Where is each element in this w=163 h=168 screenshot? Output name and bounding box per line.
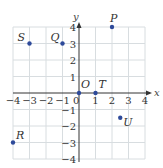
point-label: O xyxy=(81,78,90,91)
y-tick-label: 3 xyxy=(70,39,76,50)
y-tick-label: 2 xyxy=(70,55,76,66)
point-label: S xyxy=(18,31,26,44)
x-axis-label: x xyxy=(154,87,160,98)
x-tick-label: 1 xyxy=(92,95,98,106)
point-label: U xyxy=(123,116,133,129)
point-dot-icon xyxy=(27,41,31,45)
y-tick-label: −3 xyxy=(61,138,76,149)
point-U: U xyxy=(118,116,133,129)
x-tick-label: 4 xyxy=(142,95,148,106)
point-dot-icon xyxy=(93,91,97,95)
x-tick-label: 2 xyxy=(109,95,115,106)
y-tick-label: −2 xyxy=(61,121,76,132)
point-label: R xyxy=(15,129,24,142)
y-tick-label: 4 xyxy=(70,22,76,33)
y-tick-label: −4 xyxy=(61,154,76,165)
x-tick-label: 3 xyxy=(125,95,131,106)
x-tick-label: −4 xyxy=(6,95,21,106)
point-dot-icon xyxy=(118,116,122,120)
coordinate-plane: x y −4−3−2−1012344321−1−2−3−4 PQSOTUR xyxy=(0,0,163,168)
point-dot-icon xyxy=(77,91,81,95)
point-label: T xyxy=(99,78,108,91)
point-dot-icon xyxy=(60,41,64,45)
point-dot-icon xyxy=(11,140,15,144)
y-axis-label: y xyxy=(72,11,79,22)
point-label: Q xyxy=(51,31,60,44)
point-dot-icon xyxy=(110,25,114,29)
y-axis-arrow-icon xyxy=(77,22,82,28)
y-tick-label: 1 xyxy=(70,72,76,83)
point-label: P xyxy=(109,12,118,25)
y-tick-label: −1 xyxy=(61,105,76,116)
x-tick-label: −2 xyxy=(39,95,54,106)
x-tick-label: −3 xyxy=(22,95,37,106)
